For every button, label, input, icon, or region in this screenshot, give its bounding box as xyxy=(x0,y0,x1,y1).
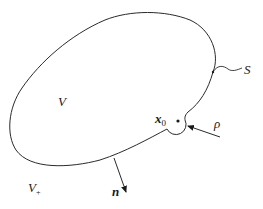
radius-label: ρ xyxy=(213,116,220,131)
surface-leader xyxy=(213,66,242,72)
exterior-label: V+ xyxy=(28,180,41,197)
exclusion-arc xyxy=(167,120,186,135)
point-label: x0 xyxy=(154,111,167,128)
boundary-curve xyxy=(10,13,216,166)
singular-point-dot xyxy=(176,119,179,122)
surface-label: S xyxy=(244,62,251,77)
diagram-svg: V V+ S x0 ρ n xyxy=(0,0,263,209)
normal-label: n xyxy=(112,184,119,199)
interior-label: V xyxy=(58,94,68,109)
diagram-canvas: V V+ S x0 ρ n xyxy=(0,0,263,209)
